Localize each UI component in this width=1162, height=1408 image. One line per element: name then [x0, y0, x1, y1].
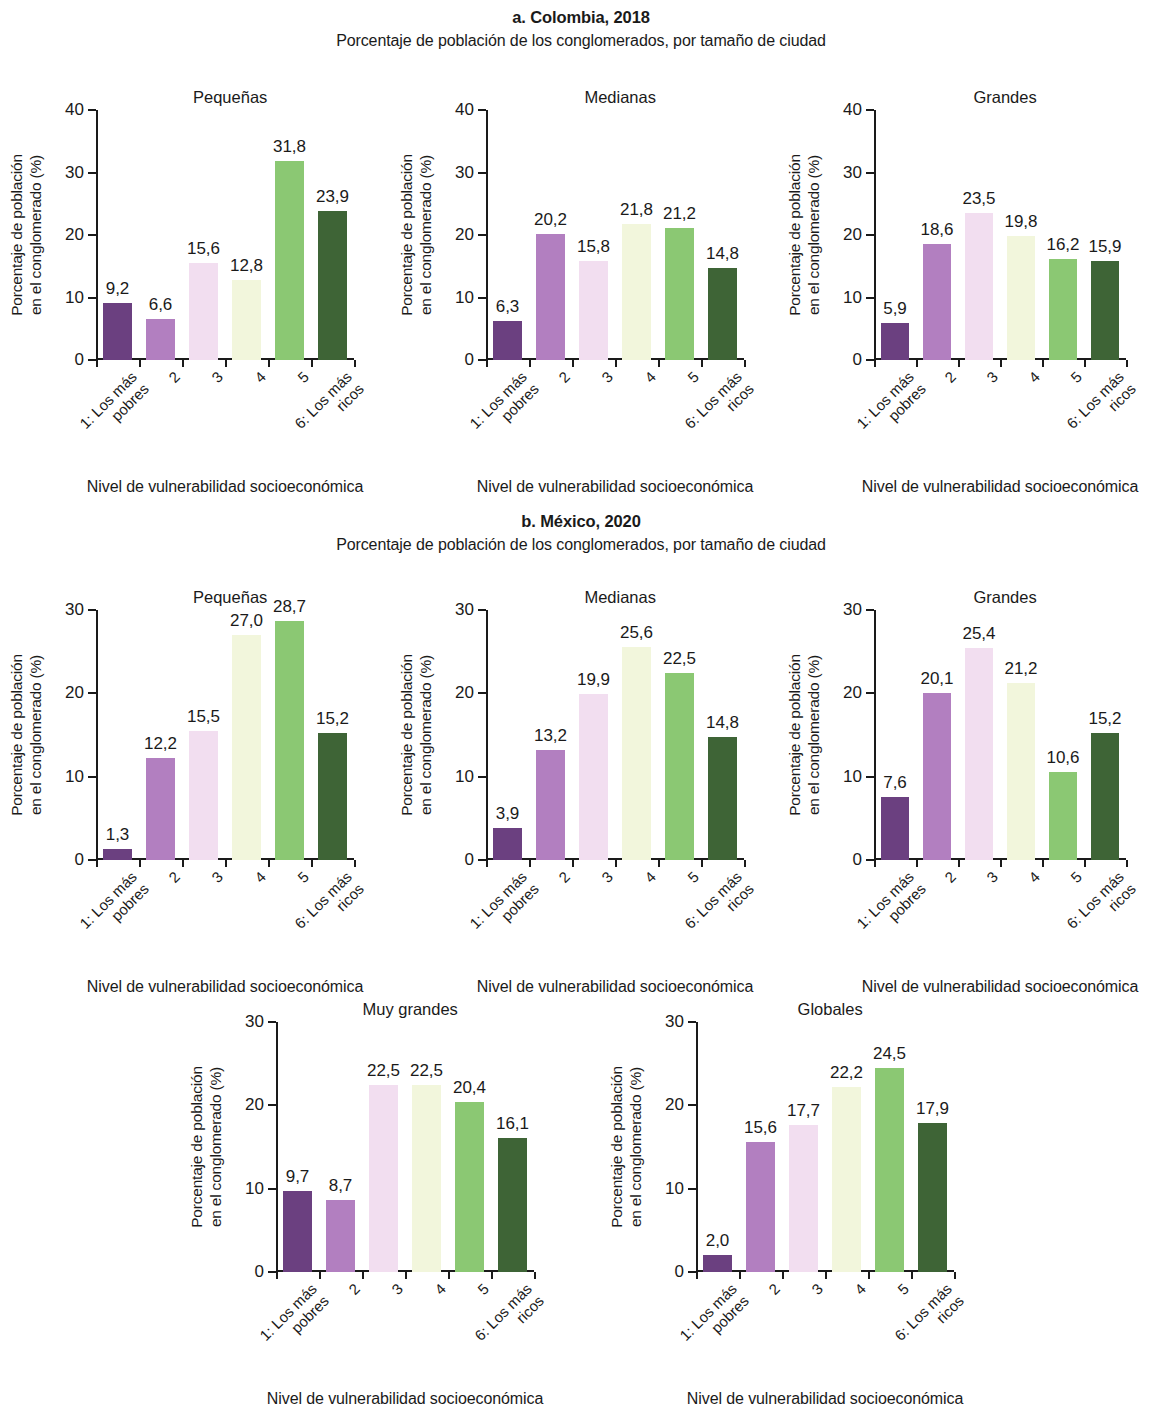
y-axis-title: Porcentaje de poblaciónen el conglomerad… — [4, 110, 48, 360]
bar — [579, 261, 607, 360]
y-tick — [268, 1021, 276, 1023]
x-tick — [825, 1272, 827, 1279]
chart-mexico-muy-grandes: Porcentaje de poblaciónen el conglomerad… — [180, 1000, 570, 1385]
bar — [708, 268, 736, 361]
y-tick-label: 0 — [255, 1262, 264, 1282]
chart-mexico-globales: Porcentaje de poblaciónen el conglomerad… — [600, 1000, 990, 1385]
panel-a-subtitle-text: Porcentaje de población de los conglomer… — [0, 32, 1162, 50]
bar — [318, 211, 346, 360]
y-tick-label: 10 — [843, 767, 862, 787]
x-tick — [225, 360, 227, 367]
x-tick — [916, 860, 918, 867]
y-tick — [268, 1104, 276, 1106]
y-tick — [88, 359, 96, 361]
x-tick — [96, 860, 98, 867]
bar-value-label: 23,9 — [316, 187, 349, 207]
x-tick — [362, 1272, 364, 1279]
bar — [665, 228, 693, 361]
y-tick-label: 10 — [245, 1179, 264, 1199]
x-tick — [1042, 860, 1044, 867]
x-tick — [954, 1272, 956, 1279]
y-tick — [88, 859, 96, 861]
bar — [1007, 236, 1035, 360]
bar-value-label: 20,1 — [920, 669, 953, 689]
bar-value-label: 25,4 — [962, 624, 995, 644]
bar-value-label: 27,0 — [230, 611, 263, 631]
bar — [412, 1085, 440, 1273]
plot-area: 01020309,78,722,522,520,416,1 — [276, 1022, 534, 1272]
x-tick — [1042, 360, 1044, 367]
bar — [881, 323, 909, 360]
x-tick — [1126, 360, 1128, 367]
bar — [622, 647, 650, 860]
y-axis-title-text: Porcentaje de poblaciónen el conglomerad… — [785, 654, 823, 816]
y-tick-label: 10 — [65, 767, 84, 787]
bar-value-label: 6,6 — [149, 295, 173, 315]
x-tick — [916, 360, 918, 367]
bar — [146, 758, 174, 860]
x-axis-title: Nivel de vulnerabilidad socioeconómica — [687, 1390, 963, 1408]
bar-value-label: 22,5 — [410, 1061, 443, 1081]
y-tick-label: 20 — [455, 683, 474, 703]
panel-b-subtitle-text: Porcentaje de población de los conglomer… — [0, 536, 1162, 554]
bar-value-label: 1,3 — [106, 825, 130, 845]
x-tick — [139, 360, 141, 367]
y-tick — [478, 109, 486, 111]
bar-value-label: 22,5 — [367, 1061, 400, 1081]
bar-value-label: 15,9 — [1088, 237, 1121, 257]
bar — [493, 321, 521, 360]
bar-value-label: 21,2 — [663, 204, 696, 224]
x-tick — [311, 360, 313, 367]
bar-value-label: 25,6 — [620, 623, 653, 643]
x-tick — [486, 360, 488, 367]
x-tick — [448, 1272, 450, 1279]
y-tick-label: 10 — [65, 288, 84, 308]
y-axis-title: Porcentaje de poblaciónen el conglomerad… — [184, 1022, 228, 1272]
x-tick — [1126, 860, 1128, 867]
y-tick-label: 20 — [843, 683, 862, 703]
x-tick — [701, 360, 703, 367]
y-axis-title: Porcentaje de poblaciónen el conglomerad… — [394, 610, 438, 860]
bar-value-label: 15,8 — [577, 237, 610, 257]
bar-value-label: 20,2 — [534, 210, 567, 230]
bar — [965, 213, 993, 360]
x-tick — [354, 360, 356, 367]
y-axis-line — [96, 610, 98, 860]
bar-value-label: 19,8 — [1004, 212, 1037, 232]
bar-value-label: 14,8 — [706, 244, 739, 264]
y-tick-label: 40 — [65, 100, 84, 120]
bar-value-label: 10,6 — [1046, 748, 1079, 768]
x-axis-title: Nivel de vulnerabilidad socioeconómica — [267, 1390, 543, 1408]
bar — [1049, 259, 1077, 360]
bar — [665, 673, 693, 861]
chart-subtitle: Muy grandes — [362, 1000, 457, 1019]
y-tick — [268, 1271, 276, 1273]
bar — [918, 1123, 946, 1272]
y-tick — [88, 776, 96, 778]
bar-value-label: 6,3 — [496, 297, 520, 317]
bar — [923, 693, 951, 861]
chart-subtitle: Medianas — [584, 88, 656, 107]
chart-mexico-medianas: Porcentaje de poblaciónen el conglomerad… — [390, 588, 780, 968]
bar-value-label: 24,5 — [873, 1044, 906, 1064]
y-tick — [866, 359, 874, 361]
chart-subtitle: Pequeñas — [193, 588, 267, 607]
bar — [369, 1085, 397, 1273]
bar — [275, 621, 303, 860]
bar — [923, 244, 951, 360]
bar — [881, 797, 909, 860]
y-tick — [88, 692, 96, 694]
bar — [189, 731, 217, 860]
bar-value-label: 12,8 — [230, 256, 263, 276]
x-tick — [701, 860, 703, 867]
x-axis-title: Nivel de vulnerabilidad socioeconómica — [477, 478, 753, 496]
bar — [536, 750, 564, 860]
y-tick-label: 20 — [665, 1095, 684, 1115]
x-tick — [615, 360, 617, 367]
y-axis-title: Porcentaje de poblaciónen el conglomerad… — [394, 110, 438, 360]
bar — [1007, 683, 1035, 860]
x-tick — [534, 1272, 536, 1279]
x-tick — [744, 860, 746, 867]
y-tick — [88, 109, 96, 111]
bar — [1091, 733, 1119, 860]
